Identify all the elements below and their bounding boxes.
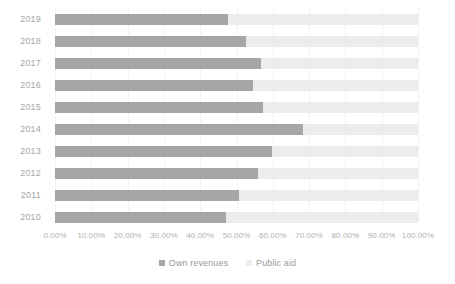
x-axis-tick-label: 10.00% xyxy=(77,231,105,240)
x-axis-tick-label: 40.00% xyxy=(186,231,214,240)
bar-segment-own-revenues xyxy=(55,168,258,179)
y-axis-tick-label: 2013 xyxy=(0,146,41,157)
gridline xyxy=(418,8,419,222)
bar-row xyxy=(55,212,418,223)
bar-segment-own-revenues xyxy=(55,102,263,113)
y-axis-tick-label: 2010 xyxy=(0,212,41,223)
y-axis-tick-label: 2012 xyxy=(0,168,41,179)
bar-segment-public-aid xyxy=(272,146,418,157)
stacked-bar-chart: 2019201820172016201520142013201220112010… xyxy=(0,0,455,284)
bar-row xyxy=(55,80,418,91)
bar-rows xyxy=(55,8,418,222)
bar-segment-own-revenues xyxy=(55,124,303,135)
bar-segment-own-revenues xyxy=(55,212,226,223)
bar-segment-public-aid xyxy=(226,212,418,223)
legend-entry[interactable]: Public aid xyxy=(246,258,296,268)
y-axis: 2019201820172016201520142013201220112010 xyxy=(0,8,48,222)
x-axis-tick-label: 100.00% xyxy=(402,231,434,240)
y-axis-tick-label: 2018 xyxy=(0,36,41,47)
bar-segment-own-revenues xyxy=(55,14,228,25)
legend-entry[interactable]: Own revenues xyxy=(159,258,228,268)
y-axis-tick-label: 2014 xyxy=(0,124,41,135)
bar-segment-own-revenues xyxy=(55,80,253,91)
chart-legend: Own revenuesPublic aid xyxy=(0,258,455,268)
bar-row xyxy=(55,102,418,113)
bar-row xyxy=(55,190,418,201)
legend-label: Public aid xyxy=(256,258,296,268)
bar-segment-own-revenues xyxy=(55,190,239,201)
y-axis-tick-label: 2015 xyxy=(0,102,41,113)
bar-row xyxy=(55,146,418,157)
x-axis-tick-label: 60.00% xyxy=(259,231,287,240)
bar-segment-public-aid xyxy=(303,124,418,135)
bar-segment-public-aid xyxy=(261,58,418,69)
bar-row xyxy=(55,36,418,47)
y-axis-tick-label: 2017 xyxy=(0,58,41,69)
bar-segment-own-revenues xyxy=(55,146,272,157)
bar-segment-public-aid xyxy=(263,102,418,113)
x-axis-tick-label: 80.00% xyxy=(332,231,360,240)
bar-segment-own-revenues xyxy=(55,36,246,47)
bar-segment-own-revenues xyxy=(55,58,261,69)
bar-segment-public-aid xyxy=(253,80,418,91)
x-axis-tick-label: 0.00% xyxy=(43,231,66,240)
x-axis-tick-label: 70.00% xyxy=(295,231,323,240)
y-axis-tick-label: 2019 xyxy=(0,14,41,25)
bar-row xyxy=(55,58,418,69)
y-axis-tick-label: 2011 xyxy=(0,190,41,201)
bar-row xyxy=(55,14,418,25)
bar-segment-public-aid xyxy=(246,36,418,47)
bar-segment-public-aid xyxy=(228,14,418,25)
square-marker-icon xyxy=(246,260,252,266)
bar-row xyxy=(55,124,418,135)
square-marker-icon xyxy=(159,260,165,266)
bar-segment-public-aid xyxy=(239,190,418,201)
x-axis-tick-label: 30.00% xyxy=(150,231,178,240)
x-axis-tick-label: 50.00% xyxy=(223,231,251,240)
legend-label: Own revenues xyxy=(169,258,228,268)
bar-row xyxy=(55,168,418,179)
x-axis-tick-label: 20.00% xyxy=(114,231,142,240)
x-axis: 0.00%10.00%20.00%30.00%40.00%50.00%60.00… xyxy=(0,231,455,245)
bar-segment-public-aid xyxy=(258,168,418,179)
y-axis-tick-label: 2016 xyxy=(0,80,41,91)
x-axis-tick-label: 90.00% xyxy=(368,231,396,240)
plot-area xyxy=(55,8,418,222)
